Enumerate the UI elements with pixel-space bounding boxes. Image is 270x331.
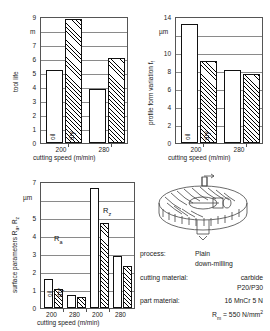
tool-life-ytick-9: 9: [22, 15, 36, 22]
surface-xcat-2: 280: [63, 311, 86, 318]
gridline: [41, 219, 134, 220]
process-info-panel: process: Plain down-milling cutting mate…: [135, 165, 270, 331]
bar-tool-life-200-oil: [46, 70, 63, 143]
chart-surface-parameters: surface parameters Ra, Rz µm 7 5 4 3 2 1…: [0, 165, 140, 331]
surface-ytick-0: 0: [22, 306, 36, 313]
tool-life-y-axis-title: tool life: [12, 71, 19, 92]
surface-xcat-3: 200: [86, 311, 109, 318]
surface-y-axis-comma: , R: [11, 219, 18, 227]
region-ra-sub: a: [59, 239, 62, 245]
profile-form-ytick-14: 14: [153, 15, 171, 22]
surface-region-label-ra: Ra: [54, 235, 62, 246]
chart-profile-form-variation: profile form variation ff µm 14 10 8 6 4…: [135, 0, 270, 160]
bar-tool-life-280-oil: [89, 89, 106, 143]
tool-life-ytick-5: 5: [22, 71, 36, 78]
surface-y-unit: µm: [23, 195, 32, 202]
tool-life-ytick-1: 1: [22, 127, 36, 134]
surface-ytick-7: 7: [22, 180, 36, 187]
bar-tool-life-280-dry: [108, 58, 125, 143]
tool-life-ytick-4: 4: [22, 85, 36, 92]
bar-label-oil: oil: [47, 291, 53, 297]
profile-form-x-axis-title: cutting speed (m/min): [168, 154, 231, 161]
info-value-tensile-strength: Rm = 550 N/mm2: [175, 308, 263, 323]
tool-life-xcat-200: 200: [48, 146, 74, 153]
tool-life-ytick-3: 3: [22, 99, 36, 106]
surface-ytick-5: 5: [22, 216, 36, 223]
profile-form-ytick-8: 8: [153, 69, 171, 76]
surface-plot-area: oil dry Ra Rz: [40, 182, 135, 309]
strength-value: = 550 N/mm: [223, 311, 260, 318]
surface-y-axis-sub-z: z: [14, 217, 20, 220]
info-key-part-material: part material:: [140, 296, 180, 305]
bar-label-oil: oil: [185, 134, 191, 140]
tool-life-xcat-280: 280: [91, 146, 117, 153]
profile-form-ytick-0: 0: [153, 141, 171, 148]
surface-ytick-2: 2: [22, 270, 36, 277]
info-key-cutting-material: cutting material:: [140, 273, 188, 282]
bar-profile-form-280-dry: [243, 74, 260, 143]
tool-life-ytick-2: 2: [22, 113, 36, 120]
chart-tool-life: tool life m 9 7 6 5 4 3 2 1 0 oil dry 20…: [0, 0, 135, 160]
profile-form-y-unit: µm: [159, 29, 168, 36]
profile-form-xcat-200: 200: [183, 146, 209, 153]
info-value-process-1: Plain: [195, 249, 265, 258]
profile-form-ytick-2: 2: [153, 123, 171, 130]
profile-form-plot-area: oil dry: [175, 17, 263, 144]
bar-profile-form-200-oil: [181, 24, 198, 143]
bar-profile-form-280-oil: [224, 70, 241, 144]
surface-y-axis-sub-a: a: [14, 228, 20, 231]
bar-tool-life-200-dry: [65, 19, 82, 143]
hob-gear-cutting-illustration: [147, 173, 259, 241]
bar-label-oil: oil: [50, 134, 56, 140]
info-value-part-material: 16 MnCr 5 N: [190, 296, 263, 305]
info-key-process: process:: [140, 249, 166, 258]
surface-y-axis-title: surface parameters Ra, Rz: [11, 217, 21, 293]
gridline: [41, 46, 127, 47]
strength-exponent: 2: [260, 309, 263, 315]
surface-ytick-3: 3: [22, 252, 36, 259]
profile-form-xcat-280: 280: [226, 146, 252, 153]
bar-surface-ra-280-dry: [77, 297, 86, 308]
tool-life-x-axis-title: cutting speed (m/min): [33, 154, 96, 161]
strength-subscript: m: [217, 315, 221, 321]
tool-life-ytick-6: 6: [22, 57, 36, 64]
surface-region-label-rz: Rz: [103, 207, 111, 218]
surface-y-axis-text: surface parameters R: [11, 231, 18, 294]
surface-ytick-1: 1: [22, 288, 36, 295]
profile-form-y-axis-subscript: f: [150, 61, 156, 62]
info-value-cutting-material-2: P20/P30: [190, 283, 263, 292]
profile-form-ytick-4: 4: [153, 105, 171, 112]
info-value-process-2: down-milling: [195, 259, 265, 268]
bar-surface-rz-200-oil: [90, 188, 99, 308]
surface-xcat-4: 280: [109, 311, 132, 318]
bar-label-dry: dry: [69, 131, 75, 140]
bar-surface-rz-280-dry: [123, 266, 132, 308]
surface-x-axis-title: cutting speed (m/min): [37, 319, 100, 326]
bar-surface-rz-200-dry: [100, 223, 109, 308]
tool-life-ytick-0: 0: [22, 141, 36, 148]
bar-label-dry: dry: [57, 288, 63, 297]
info-value-cutting-material-1: carbide: [190, 273, 263, 282]
profile-form-ytick-10: 10: [153, 51, 171, 58]
region-rz-sub: z: [108, 211, 111, 217]
gridline: [41, 201, 134, 202]
tool-life-y-unit: m: [30, 29, 35, 36]
profile-form-ytick-6: 6: [153, 87, 171, 94]
surface-xcat-1: 200: [40, 311, 63, 318]
bar-surface-rz-280-oil: [113, 256, 122, 308]
tool-life-plot-area: oil dry: [40, 17, 128, 144]
tool-life-ytick-7: 7: [22, 43, 36, 50]
bar-surface-ra-280-oil: [67, 295, 76, 308]
surface-ytick-4: 4: [22, 234, 36, 241]
bar-label-dry: dry: [204, 131, 210, 140]
gridline: [41, 32, 127, 33]
